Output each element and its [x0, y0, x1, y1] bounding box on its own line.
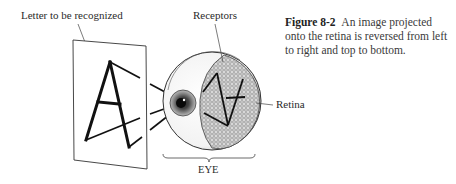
receptors-label: Receptors — [193, 9, 237, 21]
eye-projection-figure: Letter to be recognized Receptors Retina… — [0, 0, 456, 184]
retina-label: Retina — [276, 98, 305, 110]
figure-caption: Figure 8-2 An image projected onto the r… — [285, 15, 453, 57]
letter-label: Letter to be recognized — [21, 9, 123, 21]
eye-brace — [163, 154, 255, 162]
figure-number: Figure 8-2 — [285, 16, 336, 28]
eye-label: EYE — [198, 164, 218, 176]
eyeball — [163, 52, 261, 150]
